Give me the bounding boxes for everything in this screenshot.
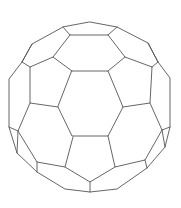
right-side-face (150, 103, 170, 130)
outline (9, 22, 170, 192)
edge-ll-2 (17, 131, 18, 153)
bottom-pentagon (65, 167, 115, 182)
upper-left-pentagon (30, 57, 58, 107)
edge-lr-1 (145, 160, 147, 168)
edge-lr-2 (162, 130, 165, 147)
center-hexagon (58, 71, 123, 136)
edge-ur-2 (148, 43, 158, 62)
edge-ul-1 (22, 62, 30, 67)
upper-hexagon (53, 35, 72, 71)
upper-hexagon-right (108, 35, 125, 71)
lower-right-hexagon (108, 130, 162, 167)
left-side-face (9, 103, 30, 131)
edge-ul-2 (22, 44, 32, 62)
truncated-icosahedron-drawing (0, 0, 181, 208)
soccer-ball-figure (0, 0, 181, 208)
top-face (63, 27, 117, 35)
upper-right-pentagon (123, 57, 152, 107)
edge-ur-1 (152, 62, 158, 67)
